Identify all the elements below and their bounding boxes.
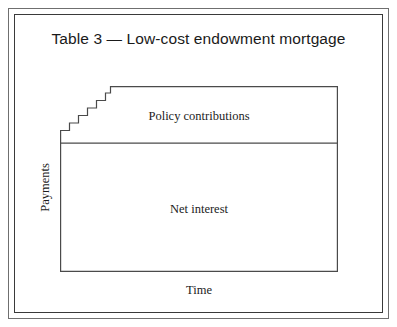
x-axis-label: Time bbox=[60, 283, 338, 298]
region-label-policy-contributions: Policy contributions bbox=[60, 109, 338, 124]
y-axis-label: Payments bbox=[38, 143, 53, 233]
region-label-net-interest: Net interest bbox=[60, 202, 338, 217]
figure-title: Table 3 — Low-cost endowment mortgage bbox=[14, 30, 383, 48]
figure-canvas: Table 3 — Low-cost endowment mortgage Po… bbox=[0, 0, 397, 327]
